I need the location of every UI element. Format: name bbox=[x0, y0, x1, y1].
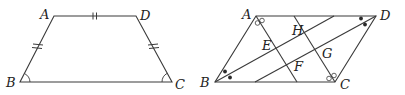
geometry-figures: A D B C A D B C bbox=[0, 0, 405, 95]
vertex-label-d: D bbox=[139, 8, 151, 23]
vertex-label-a: A bbox=[39, 7, 49, 22]
vertex-label-a: A bbox=[241, 7, 251, 22]
vertex-label-b: B bbox=[5, 75, 16, 90]
point-label-f: F bbox=[293, 59, 304, 74]
angle-marks-a bbox=[255, 18, 264, 25]
vertex-label-d: D bbox=[379, 8, 391, 23]
angle-arc-b bbox=[25, 74, 30, 82]
trapezoid-figure: A D B C bbox=[5, 7, 185, 92]
point-label-h: H bbox=[291, 23, 304, 38]
vertex-label-c: C bbox=[340, 77, 350, 92]
vertex-label-b: B bbox=[199, 75, 210, 90]
point-label-e: E bbox=[261, 38, 272, 53]
parallelogram-figure: A D B C E H G F bbox=[199, 7, 391, 92]
vertex-label-c: C bbox=[175, 77, 185, 92]
angle-arc-c bbox=[162, 73, 167, 82]
trapezoid-outline bbox=[20, 16, 172, 82]
point-label-g: G bbox=[322, 46, 332, 61]
tick-marks-ab bbox=[32, 44, 43, 49]
tick-marks-dc bbox=[148, 44, 159, 49]
